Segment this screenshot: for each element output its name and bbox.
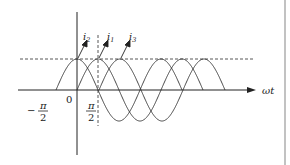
origin-label: 0 [66, 94, 72, 105]
neg-half-pi-label: − π 2 [27, 100, 48, 123]
svg-text:−: − [27, 105, 35, 116]
svg-text:π: π [39, 100, 47, 111]
svg-text:π: π [87, 100, 95, 111]
x-axis-label: ωt [262, 85, 275, 96]
curve-label-i2: i2 [83, 31, 90, 44]
half-pi-label: π 2 [86, 100, 96, 123]
diagram-canvas: i2 i1 i3 ωt 0 − π 2 π 2 [0, 0, 290, 165]
svg-text:2: 2 [40, 112, 46, 123]
svg-text:2: 2 [88, 112, 94, 123]
x-axis-arrow-icon [247, 87, 256, 93]
